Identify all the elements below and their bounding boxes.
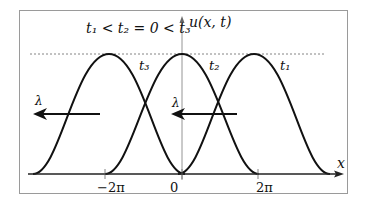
tick-label-2pi: 2π (256, 180, 273, 195)
wave-speed-label-2: λ (171, 96, 180, 110)
tick-label-neg-2pi: −2π (97, 180, 125, 195)
y-axis-label: u(x, t) (189, 14, 231, 30)
wave-speed-label-1: λ (34, 94, 43, 108)
figure-frame (20, 11, 348, 194)
curve-label-t1: t₁ (280, 58, 290, 73)
curve-label-t3: t₃ (139, 58, 149, 73)
time-relation-label: t₁ < t₂ = 0 < t₃ (86, 20, 191, 36)
tick-label-zero: 0 (170, 180, 178, 195)
x-axis-label: x (337, 155, 345, 171)
curve-label-t2: t₂ (209, 58, 219, 73)
traveling-wave-diagram: t₁ < t₂ = 0 < t₃ u(x, t) x −2π 0 2π t₃ t… (0, 0, 366, 206)
